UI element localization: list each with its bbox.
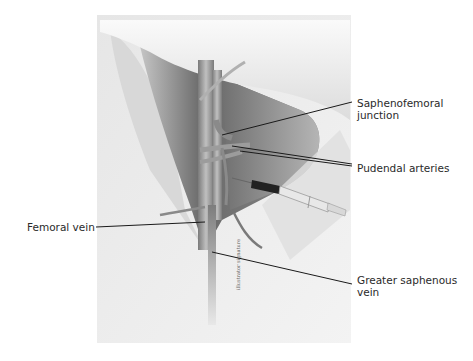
- label-greater-saphenous-vein: Greater saphenous vein: [357, 274, 457, 298]
- illustration-stage: illustrator signature Saphenofemoral jun…: [0, 0, 473, 361]
- greater-saphenous-vein: [208, 205, 216, 325]
- label-saphenofemoral-junction: Saphenofemoral junction: [357, 97, 443, 121]
- label-femoral-vein: Femoral vein: [27, 221, 95, 233]
- illustrator-signature: illustrator signature: [235, 239, 242, 290]
- anatomy-illustration: illustrator signature: [0, 0, 473, 361]
- label-pudendal-arteries: Pudendal arteries: [357, 162, 449, 174]
